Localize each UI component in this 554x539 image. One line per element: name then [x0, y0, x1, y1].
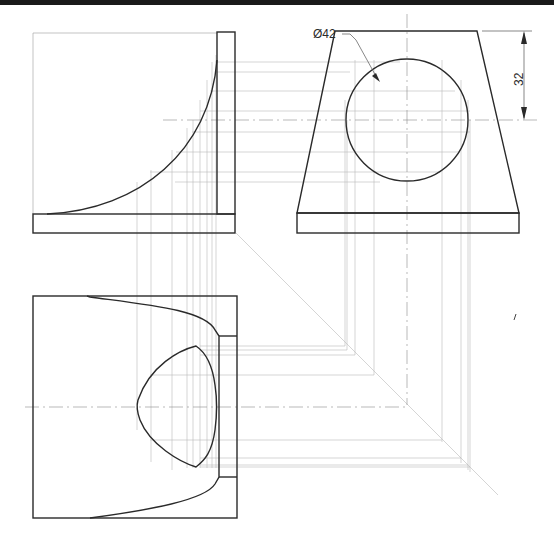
center-lines — [25, 14, 540, 407]
fillet-curve — [47, 60, 217, 214]
tapered-upright — [297, 31, 519, 213]
base-plate — [33, 214, 235, 233]
diameter-label: Ø42 — [313, 27, 336, 41]
side-base-plate — [297, 213, 519, 233]
dimensions: Ø42 32 — [313, 27, 532, 120]
projected-hole — [137, 346, 217, 467]
stray-mark — [514, 314, 516, 320]
upright-bar — [217, 32, 235, 214]
front-view — [33, 32, 235, 233]
leader-arrow-icon — [372, 73, 380, 82]
dim-arrow-down-icon — [521, 107, 527, 120]
technical-drawing: Ø42 32 — [0, 0, 554, 539]
height-dimension-label: 32 — [512, 72, 526, 86]
dim-arrow-up-icon — [521, 31, 527, 44]
projection-lines — [33, 33, 498, 495]
